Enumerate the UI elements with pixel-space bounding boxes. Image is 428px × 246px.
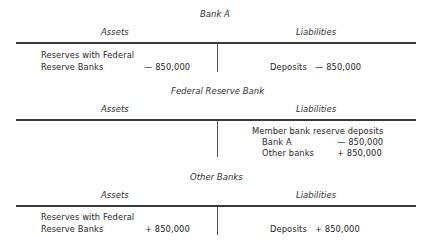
- section-title: Other Banks: [190, 172, 243, 182]
- assets-header: Assets: [101, 190, 129, 200]
- asset-value: — 850,000: [144, 62, 190, 72]
- liability-group-label: Member bank reserve deposits: [252, 126, 383, 136]
- asset-label-line2: Reserve Banks: [41, 224, 103, 234]
- liabilities-header: Liabilities: [296, 27, 336, 37]
- liability-label: Bank A: [262, 137, 292, 147]
- asset-label-line1: Reserves with Federal: [41, 212, 134, 222]
- liability-value: + 850,000: [337, 148, 382, 158]
- liability-value: + 850,000: [315, 224, 360, 234]
- vertical-rule: [217, 44, 218, 72]
- horizontal-rule: [16, 119, 416, 121]
- vertical-rule: [217, 207, 218, 235]
- horizontal-rule: [16, 42, 416, 44]
- liability-value: — 850,000: [315, 62, 361, 72]
- assets-header: Assets: [101, 27, 129, 37]
- liabilities-header: Liabilities: [296, 190, 336, 200]
- asset-label-line2: Reserve Banks: [41, 62, 103, 72]
- section-title: Bank A: [200, 9, 230, 19]
- liability-value: — 850,000: [337, 137, 383, 147]
- vertical-rule: [217, 121, 218, 157]
- asset-label-line1: Reserves with Federal: [41, 50, 134, 60]
- liability-label: Other banks: [262, 148, 314, 158]
- section-title: Federal Reserve Bank: [171, 86, 264, 96]
- horizontal-rule: [16, 205, 416, 207]
- liability-label: Deposits: [270, 62, 307, 72]
- liabilities-header: Liabilities: [296, 104, 336, 114]
- asset-value: + 850,000: [145, 224, 190, 234]
- assets-header: Assets: [101, 104, 129, 114]
- liability-label: Deposits: [270, 224, 307, 234]
